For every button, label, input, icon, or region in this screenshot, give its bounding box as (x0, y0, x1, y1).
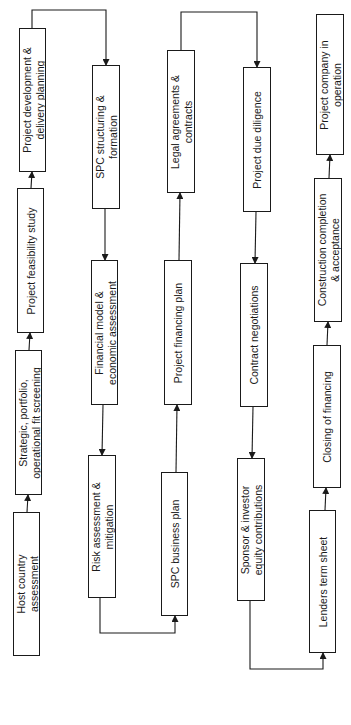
label-line: Legal agreements & (169, 75, 182, 169)
label-line: Project feasibility study (24, 207, 37, 314)
process-box-label: Project financing plan (172, 282, 185, 382)
process-box-label: SPC business plan (168, 500, 181, 589)
label-line: Sponsor & investor (239, 484, 252, 574)
label-line: Host country (14, 555, 27, 614)
process-box-duediligence: Project due diligence (243, 67, 271, 212)
label-line: SPC business plan (168, 500, 181, 589)
process-box-lenders: Lenders term sheet (309, 510, 336, 653)
label-line: Project company in (318, 40, 331, 129)
arrow-host-to-strategic (27, 495, 28, 512)
project-finance-process-diagram: Host countryassessmentStrategic, portfol… (0, 0, 351, 725)
process-box-legal: Legal agreements &contracts (167, 50, 195, 193)
process-box-label: Project company inoperation (318, 40, 343, 129)
process-box-label: Risk assessment &mitigation (90, 482, 115, 571)
label-line: Project financing plan (172, 282, 185, 382)
label-line: Strategic, portfolio, (16, 367, 29, 479)
process-box-label: Strategic, portfolio,operational fit scr… (16, 367, 41, 479)
process-box-label: Legal agreements &contracts (169, 75, 194, 169)
label-line: Project development & (20, 47, 33, 153)
label-line: & acceptance (328, 194, 341, 307)
arrow-spcbiz-to-finplan (176, 405, 177, 472)
process-box-closing: Closing of financing (313, 345, 341, 488)
process-box-label: Project feasibility study (24, 207, 37, 314)
label-line: Construction completion (316, 194, 329, 307)
arrow-contract-to-sponsor (252, 407, 253, 458)
process-box-label: Contract negotiations (248, 285, 261, 384)
process-box-spcstruct: SPC structuring &formation (92, 65, 120, 209)
process-box-sponsor: Sponsor & investorequity contributions (237, 458, 265, 601)
arrow-strategic-to-feasibility (29, 333, 30, 350)
process-box-label: SPC structuring &formation (94, 95, 119, 178)
label-line: Project due diligence (251, 91, 264, 188)
process-box-label: Project due diligence (251, 91, 264, 188)
label-line: assessment (27, 555, 40, 614)
process-box-label: Closing of financing (321, 371, 334, 463)
process-box-projco: Project company inoperation (316, 14, 344, 155)
arrow-closing-to-construction (327, 322, 328, 345)
label-line: mitigation (102, 482, 115, 571)
process-box-label: Financial model &economic assessment (92, 281, 117, 385)
process-box-contract: Contract negotiations (240, 263, 268, 407)
arrow-duediligence-to-contract (255, 212, 256, 263)
process-box-label: Construction completion& acceptance (316, 194, 341, 307)
arrow-finplan-to-legal (179, 193, 180, 260)
process-box-construction: Construction completion& acceptance (314, 178, 342, 322)
process-box-feasibility: Project feasibility study (17, 188, 44, 333)
label-line: Financial model & (92, 281, 105, 385)
label-line: equity contributions (251, 484, 264, 574)
label-line: operation (330, 40, 343, 129)
label-line: formation (106, 95, 119, 178)
arrow-construction-to-projco (329, 155, 330, 178)
process-box-finplan: Project financing plan (164, 260, 192, 405)
process-box-label: Host countryassessment (14, 555, 39, 614)
process-box-projdev: Project development &delivery planning (19, 28, 46, 172)
arrow-lenders-to-closing (325, 488, 326, 510)
label-line: Closing of financing (321, 371, 334, 463)
process-box-host: Host countryassessment (13, 512, 40, 656)
arrow-feasibility-to-projdev (31, 172, 32, 188)
label-line: Risk assessment & (90, 482, 103, 571)
label-line: contracts (181, 75, 194, 169)
label-line: Contract negotiations (248, 285, 261, 384)
label-line: operational fit screening (29, 367, 42, 479)
process-box-spcbiz: SPC business plan (161, 472, 188, 616)
process-box-risk: Risk assessment &mitigation (88, 455, 116, 598)
process-box-label: Sponsor & investorequity contributions (239, 484, 264, 574)
label-line: economic assessment (105, 281, 118, 385)
label-line: Lenders term sheet (316, 536, 329, 626)
process-box-strategic: Strategic, portfolio,operational fit scr… (15, 350, 42, 495)
process-box-financial: Financial model &economic assessment (91, 260, 118, 405)
process-box-label: Project development &delivery planning (20, 47, 45, 153)
label-line: SPC structuring & (94, 95, 107, 178)
process-box-label: Lenders term sheet (316, 536, 329, 626)
arrow-financial-to-risk (102, 405, 103, 455)
label-line: delivery planning (33, 47, 46, 153)
